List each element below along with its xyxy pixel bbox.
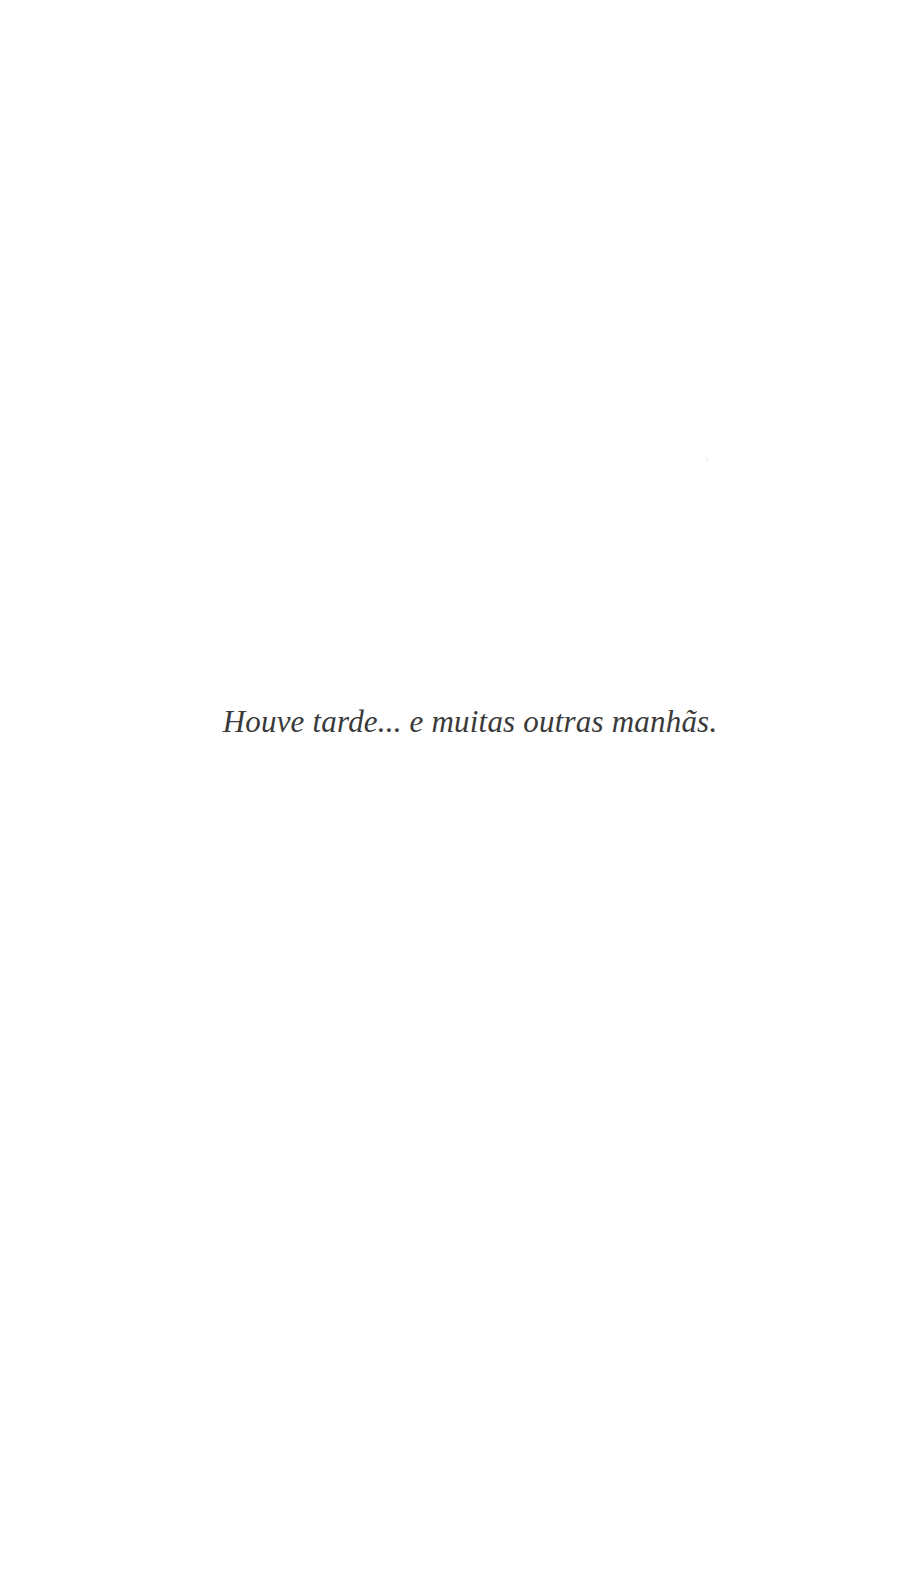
book-page: Houve tarde... e muitas outras manhãs.	[0, 0, 918, 1584]
scan-artifact	[706, 457, 708, 461]
epigraph-text: Houve tarde... e muitas outras manhãs.	[0, 700, 918, 744]
